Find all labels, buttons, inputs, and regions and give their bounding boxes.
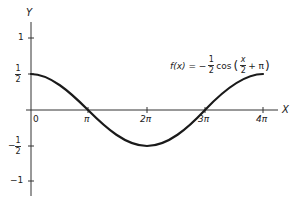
frac-num: 1: [15, 65, 20, 73]
y-tick-label-half: 1 2: [15, 65, 21, 84]
function-formula-annotation: f(x) = − 1 2 cos ( x 2 + π ): [170, 56, 270, 75]
frac-den: 2: [241, 67, 246, 75]
formula-plus-pi: + π: [248, 61, 264, 71]
formula-rparen: ): [265, 59, 270, 73]
x-tick-label-pi: π: [84, 115, 89, 124]
formula-frac-half: 1 2: [208, 56, 214, 75]
formula-frac-x-over-2: x 2: [240, 56, 246, 75]
formula-cos: cos: [216, 61, 231, 71]
x-tick-label-2pi: 2π: [140, 115, 151, 124]
frac-num: x: [241, 56, 246, 64]
frac-num: 1: [15, 137, 20, 145]
x-tick-label-3pi: 3π: [198, 115, 209, 124]
x-tick-label-0: 0: [33, 115, 39, 124]
chart-canvas: [0, 0, 296, 203]
y-tick-label-neg-1: −1: [10, 176, 23, 185]
x-axis-label: X: [282, 105, 289, 115]
frac-den: 2: [15, 148, 20, 156]
y-tick-label-neg-half: 1 2: [15, 137, 21, 156]
x-tick-label-4pi: 4π: [256, 115, 267, 124]
formula-lparen: (: [233, 59, 238, 73]
frac-den: 2: [15, 76, 20, 84]
formula-lhs: f(x) = −: [170, 61, 206, 71]
frac-den: 2: [209, 67, 214, 75]
y-tick-label-1: 1: [18, 33, 24, 42]
y-axis-label: Y: [26, 8, 32, 18]
frac-num: 1: [209, 56, 214, 64]
